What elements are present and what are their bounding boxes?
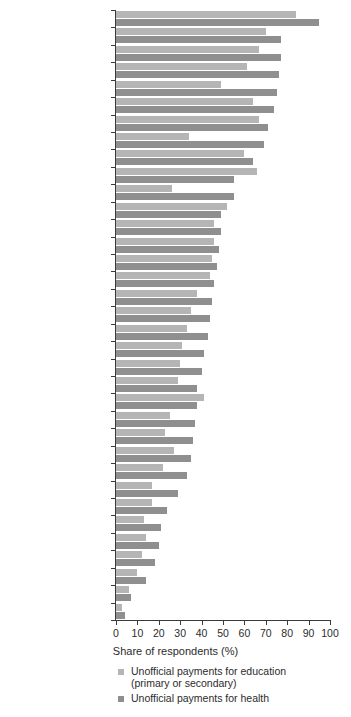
x-axis-tick (180, 620, 181, 625)
bar-health (116, 559, 155, 566)
bar-education (116, 81, 221, 88)
chart-row: Mongolia (116, 376, 330, 393)
chart-row: Poland (116, 463, 330, 480)
bar-health (116, 54, 281, 61)
chart-row: Estonia (116, 550, 330, 567)
bar-education (116, 551, 142, 558)
x-axis-tick (266, 620, 267, 625)
bar-education (116, 290, 197, 297)
chart-row: Azerbaijan (116, 10, 330, 27)
chart-row: Kazakhstan (116, 341, 330, 358)
bar-health (116, 472, 187, 479)
bar-education (116, 133, 189, 140)
chart-row: Kosovo (116, 428, 330, 445)
x-axis-tick (244, 620, 245, 625)
bar-health (116, 106, 274, 113)
chart-row: Sweden (116, 603, 330, 620)
bar-health (116, 246, 219, 253)
bar-health (116, 315, 210, 322)
chart-row: Tajikistan (116, 97, 330, 114)
chart-row: Uzbekistan (116, 254, 330, 271)
chart-row: Turkey (116, 393, 330, 410)
bar-health (116, 263, 217, 270)
chart-row: Belarus (116, 202, 330, 219)
bar-education (116, 447, 174, 454)
bar-health (116, 542, 159, 549)
chart-row: Lithuania (116, 184, 330, 201)
bar-health (116, 507, 167, 514)
bar-health (116, 176, 234, 183)
bar-health (116, 524, 161, 531)
x-axis-tick (287, 620, 288, 625)
chart-row: Moldova (116, 45, 330, 62)
bar-education (116, 464, 163, 471)
chart-row: France (116, 533, 330, 550)
chart-row: United Kingdom (116, 585, 330, 602)
chart-row: Germany (116, 568, 330, 585)
bar-education (116, 238, 214, 245)
bar-education (116, 377, 178, 384)
chart-figure: AzerbaijanKyrgyz RepublicMoldovaUkraineR… (0, 0, 351, 717)
bar-education (116, 272, 210, 279)
bar-education (116, 569, 137, 576)
bar-health (116, 594, 131, 601)
bar-education (116, 342, 182, 349)
bar-education (116, 412, 170, 419)
bar-education (116, 499, 152, 506)
bar-education (116, 185, 172, 192)
bar-education (116, 360, 180, 367)
chart-row: Czech Republic (116, 359, 330, 376)
legend-swatch-education (118, 669, 124, 675)
bar-education (116, 325, 187, 332)
bar-health (116, 228, 221, 235)
bar-education (116, 46, 259, 53)
bar-health (116, 385, 197, 392)
plot-area: AzerbaijanKyrgyz RepublicMoldovaUkraineR… (116, 10, 330, 620)
bar-education (116, 516, 144, 523)
bar-health (116, 124, 268, 131)
x-axis-tick (330, 620, 331, 625)
legend-item: Unofficial payments for health (118, 693, 343, 705)
bar-education (116, 394, 204, 401)
chart-row: Romania (116, 80, 330, 97)
bar-education (116, 150, 244, 157)
legend-item: Unofficial payments for education(primar… (118, 666, 343, 689)
bar-education (116, 63, 247, 70)
bar-education (116, 168, 257, 175)
bar-health (116, 490, 178, 497)
bar-health (116, 141, 264, 148)
bar-education (116, 28, 266, 35)
chart-row: Bulgaria (116, 306, 330, 323)
bar-health (116, 333, 208, 340)
legend-label: Unofficial payments for health (131, 692, 269, 704)
bar-education (116, 586, 129, 593)
bar-health (116, 612, 125, 619)
bar-health (116, 455, 191, 462)
chart-row: Macedonia, FYR (116, 446, 330, 463)
legend-sublabel: (primary or secondary) (131, 678, 343, 690)
bar-health (116, 420, 195, 427)
x-axis-tick (223, 620, 224, 625)
chart-legend: Unofficial payments for education(primar… (118, 666, 343, 709)
bar-health (116, 280, 214, 287)
bar-health (116, 19, 319, 26)
bar-health (116, 298, 212, 305)
chart-row: Latvia (116, 411, 330, 428)
chart-row: Croatia (116, 289, 330, 306)
bar-education (116, 534, 146, 541)
bar-education (116, 220, 214, 227)
x-axis-tick-label: 100 (317, 627, 343, 639)
bar-education (116, 203, 227, 210)
chart-row: Albania (116, 115, 330, 132)
bar-education (116, 98, 253, 105)
bar-health (116, 368, 202, 375)
bar-health (116, 211, 221, 218)
x-axis-tick (309, 620, 310, 625)
chart-row: Bosnia and Herzegovina (116, 219, 330, 236)
bar-health (116, 577, 146, 584)
bar-health (116, 89, 277, 96)
chart-row: Kyrgyz Republic (116, 27, 330, 44)
bar-education (116, 11, 296, 18)
chart-row: Slovenia (116, 481, 330, 498)
x-axis-tick (116, 620, 117, 625)
